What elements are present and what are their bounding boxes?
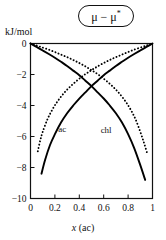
x-axis-tick-label: 0.6 [98, 203, 110, 213]
figure-container: kJ/mol μ − μ* 00.20.40.60.810−2−4−6−8−10… [0, 0, 166, 240]
plot-frame [31, 44, 153, 199]
x-axis-tick-label: 0.4 [73, 203, 85, 213]
x-axis-tick-label: 0.8 [122, 203, 134, 213]
curve-label-chl: chl [101, 125, 112, 135]
x-axis-tick-label: 1 [150, 203, 155, 213]
y-axis-tick-label: −10 [12, 194, 27, 204]
y-axis-tick-label: −8 [16, 163, 26, 173]
plot-svg: 00.20.40.60.810−2−4−6−8−10acchl [0, 0, 166, 240]
x-axis-tick-label: 0 [28, 203, 33, 213]
x-axis-title: x (ac) [0, 222, 166, 233]
y-axis-tick-label: −4 [16, 101, 26, 111]
y-axis-tick-label: −2 [16, 70, 26, 80]
y-axis-tick-label: 0 [22, 39, 27, 49]
x-axis-title-unit: (ac) [76, 222, 94, 233]
y-axis-tick-label: −6 [16, 132, 26, 142]
curve-chl [31, 44, 146, 180]
x-axis-tick-label: 0.2 [49, 203, 61, 213]
curve-label-ac: ac [58, 124, 66, 134]
